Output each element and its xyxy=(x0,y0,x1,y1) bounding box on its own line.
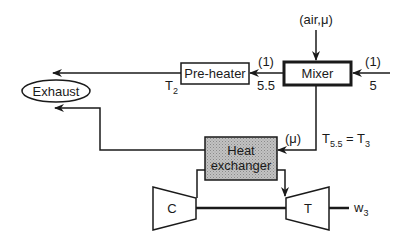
heat-exchanger-label-line1: Heat xyxy=(227,143,255,158)
exhaust-block: Exhaust xyxy=(22,80,90,102)
hx-to-exhaust-arrow xyxy=(55,108,205,150)
mixer-to-hx-stream: (μ) T5.5 = T3 xyxy=(278,86,370,150)
mixer-block: Mixer xyxy=(284,62,351,85)
compressor-label: C xyxy=(167,201,176,216)
hx-to-turbine-arrow xyxy=(277,170,285,196)
inlet-flow-label: (1) xyxy=(365,54,381,69)
air-inlet-label: (air,μ) xyxy=(299,12,333,27)
work-output: w3 xyxy=(329,200,368,218)
inlet-state-label: 5 xyxy=(369,78,376,93)
flow-diagram: (air,μ) (1) 5 Mixer (1) 5.5 Pre-heater T… xyxy=(0,0,410,248)
turbine-label: T xyxy=(304,201,312,216)
temperature-equality-label: T5.5 = T3 xyxy=(322,131,370,149)
work-output-label: w3 xyxy=(353,200,368,218)
compressor-to-hx-line xyxy=(197,170,205,198)
compressor-block: C xyxy=(153,187,196,230)
mixer-out-stream: (1) 5.5 xyxy=(250,54,283,93)
heat-exchanger-label-line2: exchanger xyxy=(211,158,272,173)
exhaust-label: Exhaust xyxy=(33,84,80,99)
hx-in-flow-label: (μ) xyxy=(285,131,301,146)
mixer-out-flow-label: (1) xyxy=(258,54,274,69)
preheater-label: Pre-heater xyxy=(184,66,246,81)
air-inlet-stream: (air,μ) xyxy=(299,12,333,60)
mixer-out-state-label: 5.5 xyxy=(257,78,275,93)
inlet-stream-5: (1) 5 xyxy=(353,54,390,93)
turbine-block: T xyxy=(286,187,329,230)
preheater-out-temp-label: T2 xyxy=(165,78,178,96)
preheater-block: Pre-heater xyxy=(181,63,249,84)
mixer-label: Mixer xyxy=(302,66,334,81)
heat-exchanger-block: Heat exchanger xyxy=(205,137,277,180)
